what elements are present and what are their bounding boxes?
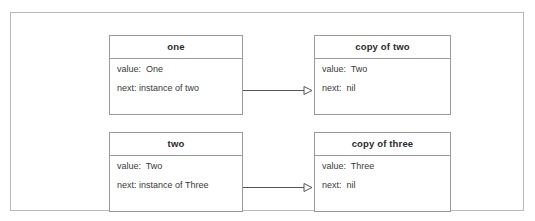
object-box-two-attribute-value: value: Two [117,162,242,171]
object-box-copy-of-three-title: copy of three [352,139,414,149]
object-box-one[interactable]: one value: One next: instance of two [109,35,243,115]
object-box-copy-of-three[interactable]: copy of three value: Three next: nil [314,132,451,212]
object-box-two-title: two [168,139,185,149]
object-box-copy-of-three-header: copy of three [315,133,450,156]
diagram-canvas: one value: One next: instance of two cop… [0,0,535,221]
connector-two-to-copy-of-three [243,182,315,193]
object-box-copy-of-two[interactable]: copy of two value: Two next: nil [314,35,451,115]
object-box-two-header: two [110,133,242,156]
object-box-copy-of-three-attribute-value: value: Three [322,162,450,171]
object-box-copy-of-two-body: value: Two next: nil [315,59,450,93]
object-box-copy-of-two-title: copy of two [355,42,409,52]
object-box-two[interactable]: two value: Two next: instance of Three [109,132,243,212]
arrowhead-open-triangle-icon [304,184,312,192]
object-box-one-header: one [110,36,242,59]
diagram-frame: one value: One next: instance of two cop… [10,12,524,211]
object-box-one-title: one [167,42,184,52]
object-box-one-body: value: One next: instance of two [110,59,242,93]
connector-one-to-copy-of-two [243,85,315,96]
object-box-copy-of-two-attribute-value: value: Two [322,65,450,74]
object-box-copy-of-three-attribute-next: next: nil [322,181,450,190]
object-box-two-attribute-next: next: instance of Three [117,181,242,190]
arrowhead-open-triangle-icon [304,87,312,95]
object-box-copy-of-two-header: copy of two [315,36,450,59]
object-box-two-body: value: Two next: instance of Three [110,156,242,190]
object-box-copy-of-two-attribute-next: next: nil [322,84,450,93]
object-box-copy-of-three-body: value: Three next: nil [315,156,450,190]
object-box-one-attribute-next: next: instance of two [117,84,242,93]
object-box-one-attribute-value: value: One [117,65,242,74]
